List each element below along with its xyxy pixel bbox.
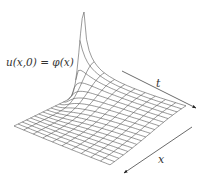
mesh-line-x <box>59 104 159 126</box>
mesh-line-t <box>110 106 186 165</box>
mesh-line-x <box>84 12 186 106</box>
mesh-line-t <box>81 96 155 153</box>
mesh-line-t <box>14 12 84 126</box>
t-axis-label: t <box>156 77 161 90</box>
mesh-line-x <box>22 122 119 158</box>
mesh-line-t <box>52 85 124 142</box>
mesh-line-t <box>72 93 146 150</box>
x-axis-arrow <box>124 127 192 173</box>
heat-surface-diagram: t x u(x,0) = φ(x) <box>0 0 201 181</box>
mesh-line-x <box>35 116 133 148</box>
mesh-line-t <box>33 73 104 134</box>
x-axis-label: x <box>158 153 165 166</box>
mesh-line-t <box>100 103 175 161</box>
initial-condition-label: u(x,0) = φ(x) <box>6 56 74 68</box>
